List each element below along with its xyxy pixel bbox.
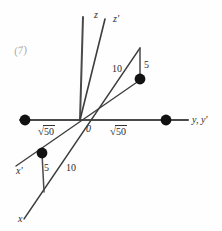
diagram-svg [0, 0, 222, 231]
point-lower-left [37, 148, 48, 159]
measure-label-upper-hypotenuse: 10 [112, 64, 122, 74]
figure-canvas: (7) z z' y, y' x x' 0 √50 √50 10 5 10 5 [0, 0, 222, 231]
measure-label-lower-hypotenuse: 10 [66, 163, 76, 173]
point-left-axis [20, 115, 31, 126]
axis-line-x-prime [16, 78, 143, 166]
measure-label-upper-leg: 5 [144, 60, 149, 70]
axis-label-z: z [94, 10, 98, 20]
measure-label-left-sqrt50: √50 [38, 126, 55, 137]
point-upper-right [135, 74, 146, 85]
radical-value-right: 50 [115, 125, 127, 137]
point-right-axis [161, 115, 172, 126]
measure-label-lower-leg: 5 [44, 163, 49, 173]
plot-points [20, 74, 172, 159]
corner-figure-mark: (7) [13, 43, 27, 57]
axis-label-x-prime: x' [16, 166, 23, 176]
axis-label-x: x [18, 214, 22, 224]
axis-label-z-prime: z' [113, 14, 119, 24]
axis-line-z [80, 17, 83, 120]
measure-label-right-sqrt50: √50 [110, 126, 127, 137]
origin-label: 0 [86, 124, 91, 134]
radical-value-left: 50 [43, 125, 55, 137]
axis-label-y: y, y' [192, 115, 207, 125]
